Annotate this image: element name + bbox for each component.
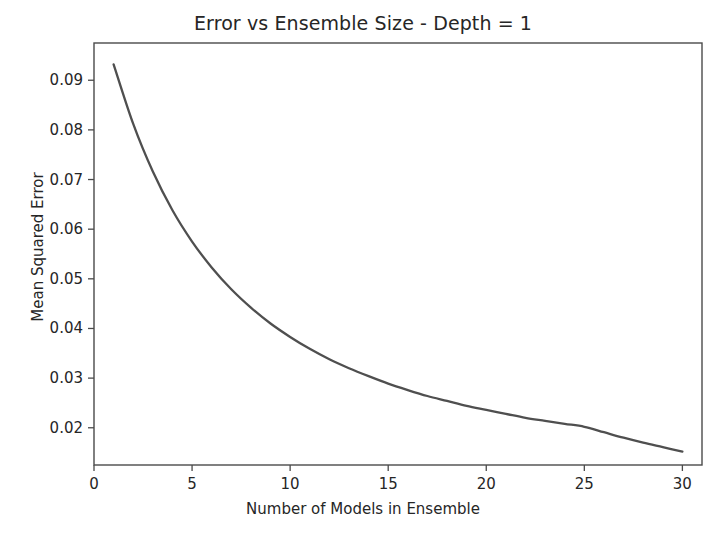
y-tick-label: 0.06 (50, 220, 83, 238)
plot-canvas: 0510152025300.020.030.040.050.060.070.08… (0, 0, 726, 535)
y-axis-label: Mean Squared Error (29, 137, 47, 357)
x-tick-label: 30 (673, 475, 692, 493)
x-tick-label: 0 (89, 475, 99, 493)
x-tick-label: 15 (379, 475, 398, 493)
y-tick-label: 0.05 (50, 270, 83, 288)
x-tick-label: 10 (281, 475, 300, 493)
chart-figure: Error vs Ensemble Size - Depth = 1 05101… (0, 0, 726, 535)
y-tick-label: 0.04 (50, 319, 83, 337)
y-tick-label: 0.09 (50, 71, 83, 89)
y-tick-label: 0.08 (50, 121, 83, 139)
x-tick-label: 5 (187, 475, 197, 493)
x-tick-label: 20 (477, 475, 496, 493)
x-tick-label: 25 (575, 475, 594, 493)
y-tick-label: 0.07 (50, 171, 83, 189)
plot-background (94, 43, 702, 465)
y-tick-label: 0.02 (50, 419, 83, 437)
y-tick-label: 0.03 (50, 369, 83, 387)
x-axis-label: Number of Models in Ensemble (0, 500, 726, 518)
